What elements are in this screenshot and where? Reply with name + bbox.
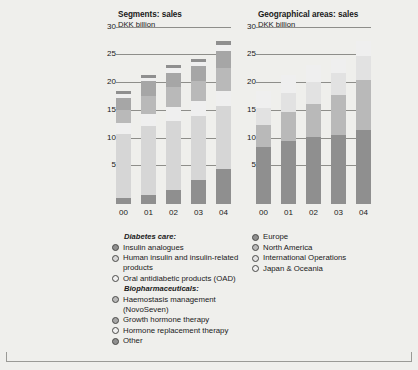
y-axis-tick-label: 20 [216,77,256,87]
bar-segment [281,75,296,93]
y-axis-tick-label: 30 [216,22,256,32]
bar-group [116,32,231,204]
bar-segment [166,107,181,121]
legend-item[interactable]: Japan & Oceania [252,264,402,274]
bar-segment [166,121,181,190]
bar-group [256,32,371,204]
x-axis-tick-label: 03 [331,207,346,218]
stacked-bar[interactable] [141,75,156,204]
bar-segment [216,169,231,205]
legend-item[interactable]: Hormone replacement therapy [112,326,262,336]
legend-swatch-icon [112,296,119,303]
legend-item[interactable]: Other [112,336,262,346]
bar-segment [256,147,271,204]
gridline [256,27,371,28]
x-axis-tick-label: 02 [166,207,181,218]
y-axis-tick-label: 20 [76,77,116,87]
bar-segment [256,108,271,125]
bar-segment [116,123,131,134]
left-chart-title: Segments: sales [118,10,231,20]
legend-swatch-icon [252,244,259,251]
bar-segment [256,91,271,108]
bar-segment [116,110,131,123]
stacked-bar[interactable] [216,41,231,204]
stacked-bar[interactable] [356,41,371,204]
stacked-bar[interactable] [191,59,206,204]
frame-right-tick [411,352,412,362]
bar-segment [281,93,296,113]
bar-segment [191,66,206,81]
legend-swatch-icon [252,255,259,262]
stacked-bar[interactable] [331,59,346,204]
legend-swatch-icon [112,327,119,334]
legend-item-label: Insulin analogues [123,243,262,253]
stacked-bar[interactable] [166,65,181,204]
bar-segment [191,101,206,115]
bar-segment [141,126,156,195]
y-axis-tick-label: 30 [76,22,116,32]
bar-segment [281,112,296,141]
legend-group-heading: Diabetes care: [124,232,262,242]
figure-page: Segments: sales DKK billion 51015202530 … [0,0,418,370]
bar-segment [141,195,156,204]
bar-segment [306,137,321,204]
legend-group-heading: Biopharmaceuticals: [124,284,262,294]
bar-segment [166,190,181,204]
legend-item-label: Growth hormone therapy [123,315,262,325]
y-axis-tick-label: 15 [216,105,256,115]
bar-segment [191,180,206,204]
legend-item-label: Europe [263,232,402,242]
x-axis-tick-label: 03 [191,207,206,218]
legend-item[interactable]: Insulin analogues [112,243,262,253]
legend-swatch-icon [252,265,259,272]
legend-item[interactable]: Growth hormone therapy [112,315,262,325]
legend-item-label: Haemostasis management (NovoSeven) [123,295,262,315]
bar-segment [191,116,206,180]
bar-segment [306,104,321,137]
stacked-bar[interactable] [281,75,296,204]
left-x-axis: 0001020304 [116,207,231,218]
bar-segment [116,198,131,204]
legend-item[interactable]: Oral antidiabetic products (OAD) [112,274,262,284]
x-axis-tick-label: 01 [141,207,156,218]
y-axis-tick-label: 25 [216,49,256,59]
legend-item[interactable]: North America [252,243,402,253]
y-axis-tick-label: 25 [76,49,116,59]
x-axis-tick-label: 02 [306,207,321,218]
legend-item[interactable]: International Operations [252,253,402,263]
y-axis-tick-label: 5 [216,160,256,170]
bar-segment [356,80,371,130]
stacked-bar[interactable] [306,65,321,204]
bar-segment [141,81,156,95]
legend-item-label: Japan & Oceania [263,264,402,274]
bar-segment [306,65,321,82]
bar-segment [331,95,346,134]
legend-item[interactable]: Haemostasis management (NovoSeven) [112,295,262,315]
y-axis-tick-label: 5 [76,160,116,170]
left-plot-area: 51015202530 [96,32,231,204]
legend-swatch-icon [112,317,119,324]
bar-segment [356,41,371,57]
bar-segment [191,81,206,101]
right-plot-area: 51015202530 [236,32,371,204]
bar-segment [281,141,296,204]
bar-segment [331,73,346,95]
x-axis-tick-label: 00 [116,207,131,218]
y-axis-tick-label: 15 [76,105,116,115]
legend-item-label: Oral antidiabetic products (OAD) [123,274,262,284]
geographical-areas-sales-chart: Geographical areas: sales DKK billion 51… [236,10,371,218]
bar-segment [356,56,371,79]
legend-item[interactable]: Human insulin and insulin-related produc… [112,253,262,273]
x-axis-tick-label: 01 [281,207,296,218]
bar-segment [331,59,346,73]
stacked-bar[interactable] [116,91,131,204]
right-x-axis: 0001020304 [256,207,371,218]
legend-swatch-icon [112,275,119,282]
bar-segment [141,96,156,114]
frame-bottom-rule [6,361,412,362]
legend-item-label: International Operations [263,253,402,263]
stacked-bar[interactable] [256,91,271,204]
bar-segment [116,134,131,198]
legend-item[interactable]: Europe [252,232,402,242]
legend-item-label: North America [263,243,402,253]
